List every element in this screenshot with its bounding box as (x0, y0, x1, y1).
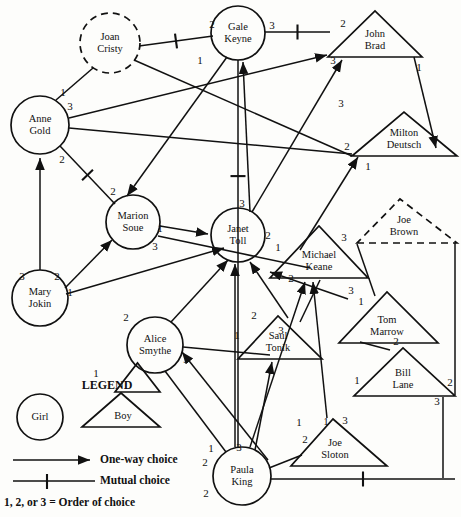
node-label-anne-line1: Anne (29, 113, 52, 124)
order-label: 1 (323, 415, 329, 427)
node-label-marion-line1: Marion (118, 210, 150, 221)
node-label-paula-line2: King (232, 476, 254, 487)
node-paula[interactable]: PaulaKing (213, 447, 271, 505)
order-label: 1 (197, 54, 203, 66)
order-label: 1 (157, 222, 163, 234)
order-label: 3 (278, 324, 284, 336)
order-label: 1 (416, 61, 422, 73)
node-joebrown[interactable]: JoeBrown (357, 199, 457, 243)
node-label-mary-line1: Mary (29, 286, 52, 297)
order-label: 3 (330, 54, 336, 66)
order-label: 1 (358, 295, 364, 307)
edge-janet-to-john (252, 60, 342, 212)
node-joan[interactable]: JoanCristy (80, 13, 140, 73)
edges-layer (40, 32, 455, 479)
order-label: 3 (338, 97, 344, 109)
order-label: 1 (234, 329, 240, 341)
legend-order-note: 1, 2, or 3 = Order of choice (4, 496, 135, 508)
node-gale[interactable]: GaleKeyne (211, 6, 265, 60)
order-label: 3 (183, 353, 189, 365)
node-label-janet-line2: Toll (230, 235, 247, 246)
node-label-joebrown-line1: Joe (397, 214, 411, 225)
order-label: 2 (123, 311, 129, 323)
edge-marion-to-janet (160, 226, 208, 234)
node-milton[interactable]: MiltonDeutsch (352, 112, 457, 156)
order-label: 2 (265, 229, 271, 241)
node-label-tom-line1: Tom (377, 314, 396, 325)
legend: LEGEND Girl Boy One-way choice Mutual ch… (4, 363, 178, 508)
node-bill[interactable]: BillLane (354, 348, 455, 396)
node-label-alice-line2: Smythe (139, 345, 171, 356)
edge-janet-to-gale (243, 62, 250, 212)
node-label-alice-line1: Alice (144, 333, 167, 344)
order-label: 3 (19, 270, 25, 282)
node-label-milton-line2: Deutsch (387, 139, 422, 150)
edge-mary-to-janet (66, 248, 224, 294)
edge-mary-to-marion (65, 240, 112, 288)
order-label: 2 (288, 272, 294, 284)
order-label: 2 (203, 487, 209, 499)
order-label: 2 (251, 309, 257, 321)
order-label: 2 (202, 456, 208, 468)
order-label: 2 (393, 335, 399, 347)
node-label-tom-line2: Marrow (370, 326, 404, 337)
node-label-joeslot-line2: Sloton (321, 449, 349, 460)
node-label-anne-line2: Gold (30, 125, 52, 136)
legend-mutual-label: Mutual choice (100, 474, 170, 486)
node-label-john-line2: Brad (365, 40, 386, 51)
order-label: 1 (365, 160, 371, 172)
order-label: 1 (67, 286, 73, 298)
node-label-gale-line1: Gale (228, 21, 248, 32)
order-label: 1 (275, 241, 281, 253)
order-label: 1 (354, 374, 360, 386)
order-label: 3 (342, 414, 348, 426)
node-anne[interactable]: AnneGold (11, 96, 69, 154)
edge-alice-to-saul (183, 347, 270, 355)
order-label: 2 (59, 153, 65, 165)
node-label-bill-line1: Bill (395, 367, 411, 378)
legend-oneway-label: One-way choice (100, 453, 178, 466)
order-label: 1 (296, 416, 302, 428)
node-label-paula-line1: Paula (230, 464, 254, 475)
edge-tom-to-michael (270, 272, 348, 299)
node-label-joan-line1: Joan (100, 31, 120, 42)
node-label-joeslot-line1: Joe (328, 437, 342, 448)
node-label-michael-line2: Keane (306, 261, 333, 272)
order-label: 2 (209, 18, 215, 30)
edge-joeslot-to-michael (313, 282, 327, 418)
order-label: 2 (447, 376, 453, 388)
order-label: 3 (236, 441, 242, 453)
edge-paula-to-saul (255, 362, 272, 450)
node-label-joan-line2: Cristy (97, 43, 123, 54)
order-label: 1 (208, 442, 214, 454)
sociogram-page: JoanCristyGaleKeyneJohnBradAnneGoldMilto… (0, 0, 461, 517)
order-label: 3 (341, 231, 347, 243)
legend-girl-label: Girl (32, 411, 49, 422)
node-tom[interactable]: TomMarrow (339, 292, 438, 343)
node-label-michael-line1: Michael (302, 249, 336, 260)
order-label: 3 (152, 240, 158, 252)
node-label-joebrown-line2: Brown (390, 226, 419, 237)
edge-paula-to-alice (182, 352, 268, 460)
edge-alice-to-janet (171, 260, 228, 322)
edge-gale-to-marion (127, 57, 227, 196)
edge-anne-to-milton (69, 128, 352, 154)
order-label: 2 (344, 140, 350, 152)
order-label: 1 (60, 86, 66, 98)
node-label-janet-line1: Janet (227, 223, 249, 234)
order-label: 1 (93, 367, 99, 379)
order-label: 2 (110, 185, 116, 197)
order-label: 3 (348, 284, 354, 296)
mutual-tick-joan-gale (175, 34, 177, 49)
order-label: 3 (239, 197, 245, 209)
node-label-marion-line2: Soue (123, 222, 144, 233)
node-label-milton-line1: Milton (390, 127, 419, 138)
legend-boy-label: Boy (114, 410, 132, 421)
node-label-john-line1: John (365, 28, 386, 39)
node-label-bill-line2: Lane (393, 379, 414, 390)
node-label-saul-line2: Tonik (266, 342, 291, 353)
sociogram-canvas: JoanCristyGaleKeyneJohnBradAnneGoldMilto… (0, 0, 461, 517)
node-michael[interactable]: MichaelKeane (270, 226, 368, 278)
node-label-gale-line2: Keyne (224, 33, 252, 44)
order-label: 2 (340, 17, 346, 29)
